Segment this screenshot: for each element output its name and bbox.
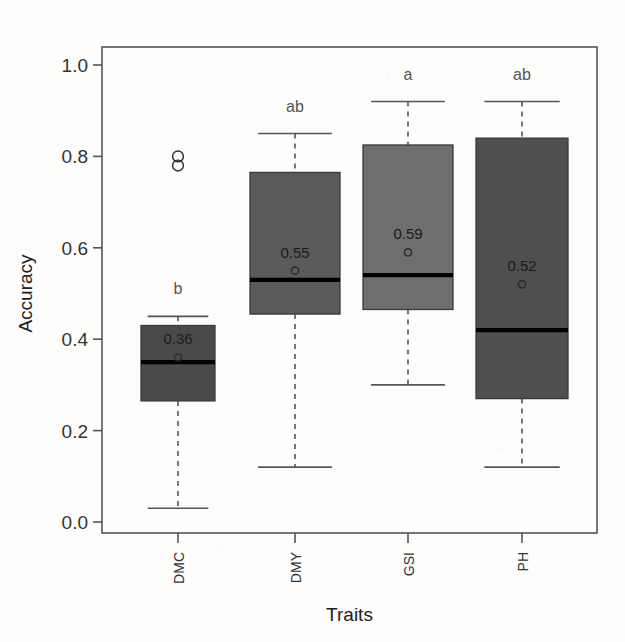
group-letter-dmc: b xyxy=(174,280,183,297)
group-letter-ph: ab xyxy=(513,66,531,83)
accuracy-by-traits-boxplot: 0.00.20.40.60.81.0AccuracyDMCDMYGSIPHTra… xyxy=(0,0,625,642)
y-axis-tick-label: 0.2 xyxy=(62,421,88,442)
boxplot-figure: 0.00.20.40.60.81.0AccuracyDMCDMYGSIPHTra… xyxy=(0,0,625,642)
mean-value-label-ph: 0.52 xyxy=(507,257,536,274)
y-axis-title: Accuracy xyxy=(15,254,36,333)
y-axis-tick-label: 0.4 xyxy=(62,329,89,350)
x-axis-tick-label-ph: PH xyxy=(515,552,531,571)
x-axis-tick-label-dmc: DMC xyxy=(171,552,187,584)
x-axis-title: Traits xyxy=(326,604,373,625)
mean-value-label-gsi: 0.59 xyxy=(393,225,422,242)
mean-value-label-dmc: 0.36 xyxy=(163,330,192,347)
group-letter-gsi: a xyxy=(404,66,413,83)
x-axis-tick-label-dmy: DMY xyxy=(288,551,304,583)
x-axis-tick-label-gsi: GSI xyxy=(401,552,417,576)
y-axis-tick-label: 0.8 xyxy=(62,146,88,167)
y-axis-tick-label: 1.0 xyxy=(62,55,88,76)
y-axis-tick-label: 0.6 xyxy=(62,238,88,259)
group-letter-dmy: ab xyxy=(286,98,304,115)
mean-value-label-dmy: 0.55 xyxy=(280,244,309,261)
y-axis-tick-label: 0.0 xyxy=(62,512,88,533)
